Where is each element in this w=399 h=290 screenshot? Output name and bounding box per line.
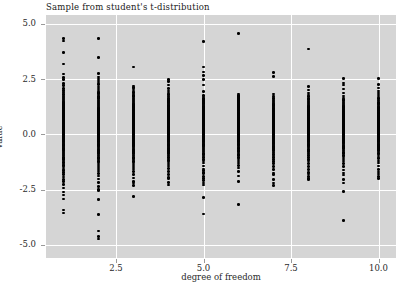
data-point xyxy=(377,177,380,180)
data-point xyxy=(342,219,345,222)
data-point xyxy=(342,88,345,91)
gridline-horizontal xyxy=(46,245,396,246)
data-point xyxy=(342,169,345,172)
data-point xyxy=(167,184,170,187)
data-point xyxy=(237,170,240,173)
data-point xyxy=(132,184,135,187)
data-point xyxy=(97,189,100,192)
data-point xyxy=(307,48,310,51)
data-point xyxy=(132,173,135,176)
data-point xyxy=(97,238,100,241)
y-tick-label: 5.0 xyxy=(0,18,36,28)
data-point xyxy=(62,51,65,54)
data-point xyxy=(62,40,65,43)
y-tick-mark xyxy=(41,134,45,135)
data-point xyxy=(237,175,240,178)
y-tick-label: 0.0 xyxy=(0,129,36,139)
data-point xyxy=(202,196,205,199)
data-point xyxy=(342,84,345,87)
data-point xyxy=(342,174,345,177)
data-point xyxy=(307,178,310,181)
x-axis-label: degree of freedom xyxy=(181,272,261,282)
data-point xyxy=(307,89,310,92)
data-point xyxy=(237,180,240,183)
data-point xyxy=(202,74,205,77)
gridline-vertical xyxy=(291,15,292,258)
data-point xyxy=(202,84,205,87)
data-point xyxy=(62,198,65,201)
data-point xyxy=(237,32,240,35)
data-point xyxy=(132,177,135,180)
data-point xyxy=(272,184,275,187)
chart-title: Sample from student's t-distribution xyxy=(46,2,210,12)
data-point xyxy=(62,78,65,81)
chart-figure: Sample from student's t-distribution 5.0… xyxy=(0,0,399,290)
y-tick-mark xyxy=(41,190,45,191)
gridline-horizontal xyxy=(46,24,396,25)
data-point xyxy=(272,168,275,171)
data-point xyxy=(237,167,240,170)
data-point xyxy=(202,40,205,43)
data-point xyxy=(97,178,100,181)
data-point xyxy=(377,77,380,80)
y-tick-label: -2.5 xyxy=(0,184,36,194)
y-tick-mark xyxy=(41,24,45,25)
data-point xyxy=(62,183,65,186)
y-tick-mark xyxy=(41,79,45,80)
y-tick-label: 2.5 xyxy=(0,74,36,84)
plot-area xyxy=(46,15,396,258)
data-point xyxy=(202,165,205,168)
data-point xyxy=(202,78,205,81)
data-point xyxy=(62,209,65,212)
data-point xyxy=(272,178,275,181)
data-point xyxy=(202,213,205,216)
data-point xyxy=(132,195,135,198)
y-axis-label: value xyxy=(0,125,4,148)
data-point xyxy=(342,77,345,80)
data-point xyxy=(97,198,100,201)
data-point xyxy=(377,87,380,90)
data-point xyxy=(342,182,345,185)
gridline-vertical xyxy=(116,15,117,258)
x-tick-label: 10.0 xyxy=(369,263,388,273)
data-point xyxy=(97,175,100,178)
data-point xyxy=(307,85,310,88)
data-point xyxy=(97,230,100,233)
data-point xyxy=(97,56,100,59)
x-tick-mark xyxy=(291,259,292,263)
data-point xyxy=(132,66,135,69)
data-point xyxy=(272,75,275,78)
data-point xyxy=(272,173,275,176)
data-point xyxy=(342,92,345,95)
data-point xyxy=(272,165,275,168)
data-point xyxy=(342,178,345,181)
x-tick-label: 2.5 xyxy=(109,263,123,273)
data-point xyxy=(307,165,310,168)
x-tick-mark xyxy=(379,259,380,263)
x-tick-mark xyxy=(116,259,117,263)
data-point xyxy=(62,63,65,66)
data-point xyxy=(342,165,345,168)
data-point xyxy=(202,90,205,93)
data-point xyxy=(167,80,170,83)
data-point xyxy=(202,71,205,74)
x-tick-label: 7.5 xyxy=(284,263,298,273)
data-point xyxy=(342,190,345,193)
data-point xyxy=(272,71,275,74)
x-tick-mark xyxy=(204,259,205,263)
data-point xyxy=(62,212,65,215)
data-point xyxy=(167,177,170,180)
data-point xyxy=(377,83,380,86)
y-tick-label: -5.0 xyxy=(0,239,36,249)
y-tick-mark xyxy=(41,245,45,246)
data-point xyxy=(97,37,100,40)
data-point xyxy=(62,194,65,197)
data-point xyxy=(237,203,240,206)
data-point xyxy=(97,181,100,184)
data-point xyxy=(167,170,170,173)
data-point xyxy=(167,84,170,87)
data-point xyxy=(97,72,100,75)
data-point xyxy=(97,213,100,216)
